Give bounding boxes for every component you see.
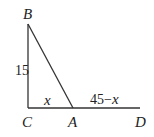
side-label-bc: 15 bbox=[15, 63, 29, 78]
side-label-ad-num: 45− bbox=[90, 92, 112, 107]
side-label-ca: x bbox=[43, 92, 51, 108]
triangle-diagram: B C A D 15 x 45−x bbox=[0, 0, 154, 137]
side-label-ad: 45−x bbox=[90, 91, 119, 107]
point-label-b: B bbox=[23, 6, 32, 22]
point-label-d: D bbox=[134, 114, 146, 130]
side-label-ad-var: x bbox=[111, 91, 119, 107]
point-label-c: C bbox=[22, 114, 33, 130]
point-label-a: A bbox=[67, 114, 78, 130]
